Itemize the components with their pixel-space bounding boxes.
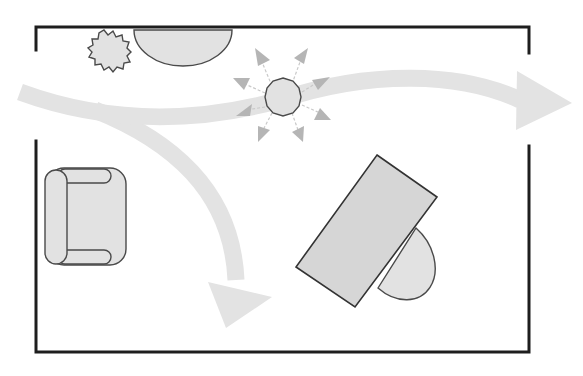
half-circle-table-icon — [134, 30, 232, 66]
plant-icon — [88, 30, 131, 72]
armchair-icon — [45, 168, 126, 265]
branch-arrowhead-icon — [208, 282, 272, 328]
main-arrowhead-icon — [516, 71, 572, 130]
light-fixture — [265, 78, 301, 116]
